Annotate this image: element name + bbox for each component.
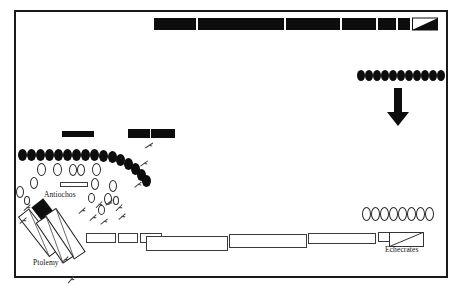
left-elephant-row-unit: [45, 149, 54, 161]
top-right-elephant-row-unit: [365, 70, 373, 81]
left-outline-cavalry-unit: [77, 164, 85, 176]
top-right-elephant-row-unit: [357, 70, 365, 81]
left-outline-cavalry-unit: [53, 163, 62, 176]
label-ptolemy: Ptolemy: [33, 258, 59, 267]
left-outline-cavalry-unit: [69, 164, 77, 176]
top-right-elephant-row-unit: [429, 70, 437, 81]
top-right-elephant-row-unit: [373, 70, 381, 81]
left-elephant-row-unit: [36, 149, 45, 161]
skirmisher-mark: [117, 211, 128, 223]
skirmisher-mark: [67, 274, 77, 286]
label-echecrates: Echecrates: [385, 245, 418, 254]
diagram-canvas: AntiochosPtolemyEchecrates: [0, 0, 462, 292]
black-bar-mid-a: [128, 129, 150, 138]
white-bar-antiochos: [60, 182, 88, 187]
left-elephant-row-unit: [72, 149, 81, 161]
left-outline-cavalry-unit: [37, 163, 46, 176]
bottom-line-unit: [308, 233, 376, 244]
skirmisher-mark: [89, 212, 100, 224]
top-right-elephant-row-unit: [413, 70, 421, 81]
skirmisher-mark: [99, 216, 111, 228]
black-bar-mid-b: [151, 129, 175, 138]
left-outline-cavalry-unit: [91, 178, 99, 190]
top-line-unit: [398, 18, 410, 30]
bottom-line-unit: [86, 233, 116, 243]
top-line-unit: [286, 18, 340, 30]
bottom-right-outline-row-unit: [362, 207, 371, 221]
left-elephant-row-unit: [54, 149, 63, 161]
top-right-elephant-row-unit: [405, 70, 413, 81]
bottom-line-unit: [146, 236, 228, 251]
top-line-unit: [342, 18, 376, 30]
top-line-wedge-unit: [412, 17, 438, 31]
top-line-unit: [198, 18, 284, 30]
left-elephant-row-unit: [63, 149, 72, 161]
bottom-right-outline-row-unit: [380, 207, 389, 221]
top-right-elephant-row-unit: [421, 70, 429, 81]
left-outline-cavalry-unit: [92, 163, 101, 176]
left-elephant-row-unit: [18, 149, 27, 161]
left-elephant-row-unit: [90, 149, 99, 161]
advance-arrow: [386, 88, 410, 128]
bottom-right-outline-row-unit: [407, 207, 416, 221]
bottom-line-unit: [118, 233, 138, 243]
bottom-line-unit: [229, 234, 307, 248]
skirmisher-mark: [61, 254, 72, 266]
diagram-render-layer: AntiochosPtolemyEchecrates: [0, 0, 462, 292]
bottom-right-outline-row-unit: [416, 207, 425, 221]
skirmisher-mark: [133, 179, 144, 191]
bottom-right-outline-row-unit: [425, 207, 434, 221]
left-elephant-row-unit: [99, 150, 108, 162]
black-bar-left: [62, 131, 94, 137]
left-outline-cavalry-unit: [16, 186, 24, 198]
label-antiochos: Antiochos: [44, 190, 76, 199]
bottom-right-outline-row-unit: [398, 207, 407, 221]
left-outline-cavalry-unit: [88, 193, 95, 203]
top-line-unit: [154, 18, 196, 30]
left-outline-cavalry-unit: [30, 177, 38, 189]
skirmisher-mark: [144, 140, 156, 153]
top-right-elephant-row-unit: [389, 70, 397, 81]
left-outline-cavalry-unit: [109, 180, 117, 192]
left-elephant-row-unit: [27, 149, 36, 161]
left-elephant-row-unit: [81, 149, 90, 161]
top-right-elephant-row-unit: [437, 70, 445, 81]
top-line-unit: [378, 18, 396, 30]
top-right-elephant-row-unit: [381, 70, 389, 81]
top-right-elephant-row-unit: [397, 70, 405, 81]
skirmisher-mark: [78, 205, 89, 217]
bottom-right-outline-row-unit: [371, 207, 380, 221]
bottom-right-outline-row-unit: [389, 207, 398, 221]
